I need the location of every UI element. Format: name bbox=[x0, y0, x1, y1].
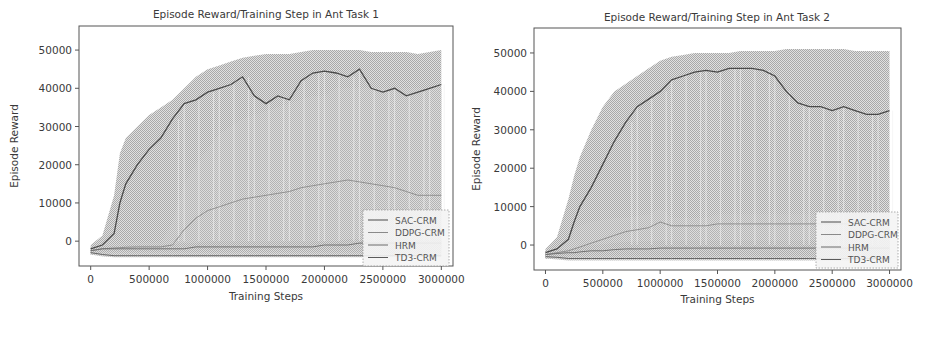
y-tick-label: 0 bbox=[65, 235, 72, 247]
legend-label-sac-crm: SAC-CRM bbox=[848, 218, 890, 228]
x-tick-label: 1500000 bbox=[243, 273, 290, 285]
y-tick-label: 20000 bbox=[494, 162, 527, 174]
x-tick-label: 1000000 bbox=[184, 273, 231, 285]
x-tick-label: 0 bbox=[87, 273, 94, 285]
y-tick-label: 30000 bbox=[39, 121, 72, 133]
x-tick-label: 0 bbox=[542, 277, 549, 289]
y-tick-label: 30000 bbox=[494, 124, 527, 136]
y-tick-label: 0 bbox=[520, 239, 527, 251]
y-axis-label: Episode Reward bbox=[470, 107, 482, 191]
y-axis-label: Episode Reward bbox=[8, 104, 20, 188]
x-axis-label: Training Steps bbox=[228, 290, 303, 302]
chart-title: Episode Reward/Training Step in Ant Task… bbox=[153, 8, 379, 20]
legend-label-sac-crm: SAC-CRM bbox=[395, 216, 437, 226]
x-tick-label: 3000000 bbox=[866, 277, 913, 289]
x-tick-label: 500000 bbox=[129, 273, 169, 285]
y-tick-label: 20000 bbox=[39, 159, 72, 171]
y-tick-label: 40000 bbox=[39, 82, 72, 94]
x-tick-label: 2500000 bbox=[809, 277, 856, 289]
x-axis-label: Training Steps bbox=[679, 293, 754, 305]
y-tick-label: 50000 bbox=[494, 47, 527, 59]
legend-label-ddpg-crm: DDPG-CRM bbox=[395, 228, 445, 238]
y-tick-label: 10000 bbox=[39, 197, 72, 209]
x-tick-label: 2000000 bbox=[751, 277, 798, 289]
x-tick-label: 2500000 bbox=[359, 273, 406, 285]
y-tick-label: 40000 bbox=[494, 85, 527, 97]
legend-label-ddpg-crm: DDPG-CRM bbox=[848, 230, 898, 240]
x-tick-label: 1000000 bbox=[637, 277, 684, 289]
legend: SAC-CRMDDPG-CRMHRMTD3-CRM bbox=[816, 212, 898, 268]
chart-canvas: Episode Reward/Training Step in Ant Task… bbox=[456, 0, 926, 342]
chart-ant-task-2: Episode Reward/Training Step in Ant Task… bbox=[456, 0, 926, 342]
chart-title: Episode Reward/Training Step in Ant Task… bbox=[604, 11, 830, 23]
legend-label-td3-crm: TD3-CRM bbox=[394, 253, 437, 263]
y-tick-label: 10000 bbox=[494, 201, 527, 213]
x-tick-label: 500000 bbox=[583, 277, 623, 289]
legend-label-td3-crm: TD3-CRM bbox=[847, 255, 890, 265]
legend-label-hrm: HRM bbox=[395, 241, 416, 251]
chart-ant-task-1: Episode Reward/Training Step in Ant Task… bbox=[0, 0, 470, 342]
chart-canvas: Episode Reward/Training Step in Ant Task… bbox=[0, 0, 470, 342]
y-tick-label: 50000 bbox=[39, 44, 72, 56]
legend-label-hrm: HRM bbox=[848, 243, 869, 253]
x-tick-label: 2000000 bbox=[301, 273, 348, 285]
x-tick-label: 1500000 bbox=[694, 277, 741, 289]
legend: SAC-CRMDDPG-CRMHRMTD3-CRM bbox=[363, 210, 449, 266]
